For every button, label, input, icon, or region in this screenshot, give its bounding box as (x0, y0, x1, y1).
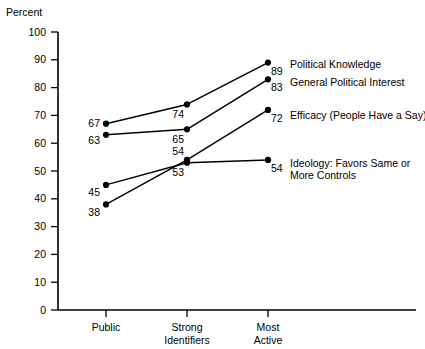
y-tick-label-30: 30 (34, 220, 46, 232)
data-point-ideo-public (103, 182, 109, 188)
data-point-gpi-public (103, 132, 109, 138)
y-tick-label-70: 70 (34, 109, 46, 121)
data-point-gpi-strong (184, 126, 190, 132)
y-tick-label-80: 80 (34, 81, 46, 93)
chart-canvas: 0 10 20 30 40 50 60 70 80 90 100 Percent… (0, 0, 425, 349)
x-tick-label-public: Public (92, 321, 121, 333)
series-label-political-knowledge: Political Knowledge (290, 58, 381, 70)
y-tick-label-50: 50 (34, 165, 46, 177)
data-point-pk-strong (184, 101, 190, 107)
series-ideology: 45 53 54 Ideology: Favors Same or More C… (88, 157, 410, 198)
x-tick-label-active: Active (254, 334, 283, 346)
series-label-ideology-line2: More Controls (290, 169, 356, 181)
x-axis-tick-labels: Public Strong Identifiers Most Active (92, 321, 283, 346)
y-tick-label-60: 60 (34, 137, 46, 149)
x-axis-ticks (106, 310, 268, 317)
y-tick-label-10: 10 (34, 276, 46, 288)
data-label-eff-most: 72 (271, 112, 283, 124)
y-tick-label-20: 20 (34, 248, 46, 260)
data-label-ideo-strong: 53 (172, 166, 184, 178)
y-tick-label-40: 40 (34, 192, 46, 204)
y-axis-tick-labels: 0 10 20 30 40 50 60 70 80 90 100 (28, 26, 46, 316)
data-label-gpi-most: 83 (271, 81, 283, 93)
data-label-pk-most: 89 (271, 65, 283, 77)
series-label-efficacy: Efficacy (People Have a Say) (290, 109, 425, 121)
data-label-gpi-strong: 65 (172, 133, 184, 145)
x-tick-label-identifiers: Identifiers (164, 334, 210, 346)
y-tick-label-90: 90 (34, 53, 46, 65)
series-line-political-knowledge (106, 63, 268, 124)
y-tick-label-100: 100 (28, 26, 46, 38)
series-label-ideology-line1: Ideology: Favors Same or (290, 157, 411, 169)
data-label-pk-strong: 74 (172, 108, 184, 120)
line-chart: 0 10 20 30 40 50 60 70 80 90 100 Percent… (0, 0, 425, 349)
data-label-pk-public: 67 (88, 117, 100, 129)
data-label-eff-public: 38 (88, 206, 100, 218)
data-label-ideo-most: 54 (271, 162, 283, 174)
y-tick-label-0: 0 (40, 304, 46, 316)
data-label-eff-strong: 54 (172, 145, 184, 157)
data-point-pk-public (103, 121, 109, 127)
data-label-ideo-public: 45 (88, 186, 100, 198)
series-label-general-political-interest: General Political Interest (290, 76, 404, 88)
y-axis-title: Percent (6, 6, 42, 18)
y-axis-ticks (51, 32, 58, 310)
x-tick-label-strong: Strong (172, 321, 203, 333)
data-point-eff-public (103, 201, 109, 207)
data-point-ideo-strong (184, 160, 190, 166)
data-label-gpi-public: 63 (88, 134, 100, 146)
x-tick-label-most: Most (257, 321, 280, 333)
